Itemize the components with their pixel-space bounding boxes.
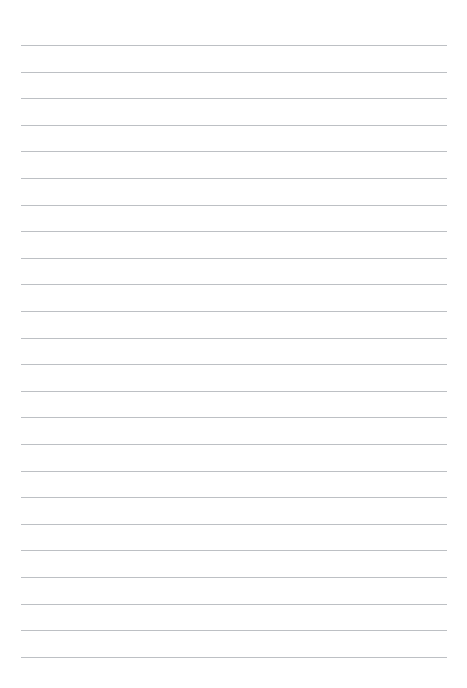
rule-line xyxy=(21,417,447,418)
writing-line-row[interactable] xyxy=(0,101,467,127)
rule-line xyxy=(21,151,447,152)
rule-line xyxy=(21,311,447,312)
rule-line xyxy=(21,630,447,631)
rule-line xyxy=(21,125,447,126)
writing-line-row[interactable] xyxy=(0,74,467,100)
rule-line xyxy=(21,258,447,259)
rule-line xyxy=(21,471,447,472)
rule-line xyxy=(21,205,447,206)
writing-line-row[interactable] xyxy=(0,234,467,260)
writing-line-row[interactable] xyxy=(0,447,467,473)
writing-line-row[interactable] xyxy=(0,553,467,579)
rule-line xyxy=(21,550,447,551)
rule-line xyxy=(21,364,447,365)
ruled-lines-area xyxy=(0,0,467,688)
rule-line xyxy=(21,98,447,99)
rule-line xyxy=(21,231,447,232)
rule-line xyxy=(21,338,447,339)
writing-line-row[interactable] xyxy=(0,393,467,419)
rule-line xyxy=(21,657,447,658)
writing-line-row[interactable] xyxy=(0,154,467,180)
writing-line-row[interactable] xyxy=(0,500,467,526)
rule-line xyxy=(21,497,447,498)
writing-line-row[interactable] xyxy=(0,260,467,286)
writing-line-row[interactable] xyxy=(0,21,467,47)
writing-line-row[interactable] xyxy=(0,287,467,313)
rule-line xyxy=(21,577,447,578)
rule-line xyxy=(21,72,447,73)
writing-line-row[interactable] xyxy=(0,127,467,153)
writing-line-row[interactable] xyxy=(0,181,467,207)
writing-line-row[interactable] xyxy=(0,606,467,632)
rule-line xyxy=(21,178,447,179)
rule-line xyxy=(21,604,447,605)
rule-line xyxy=(21,524,447,525)
writing-line-row[interactable] xyxy=(0,367,467,393)
lined-paper-page xyxy=(0,0,467,688)
writing-line-row[interactable] xyxy=(0,314,467,340)
writing-line-row[interactable] xyxy=(0,633,467,659)
writing-line-row[interactable] xyxy=(0,473,467,499)
writing-line-row[interactable] xyxy=(0,340,467,366)
writing-line-row[interactable] xyxy=(0,207,467,233)
rule-line xyxy=(21,444,447,445)
writing-line-row[interactable] xyxy=(0,48,467,74)
writing-line-row[interactable] xyxy=(0,420,467,446)
rule-line xyxy=(21,284,447,285)
writing-line-row[interactable] xyxy=(0,580,467,606)
writing-line-row[interactable] xyxy=(0,526,467,552)
rule-line xyxy=(21,45,447,46)
rule-line xyxy=(21,391,447,392)
